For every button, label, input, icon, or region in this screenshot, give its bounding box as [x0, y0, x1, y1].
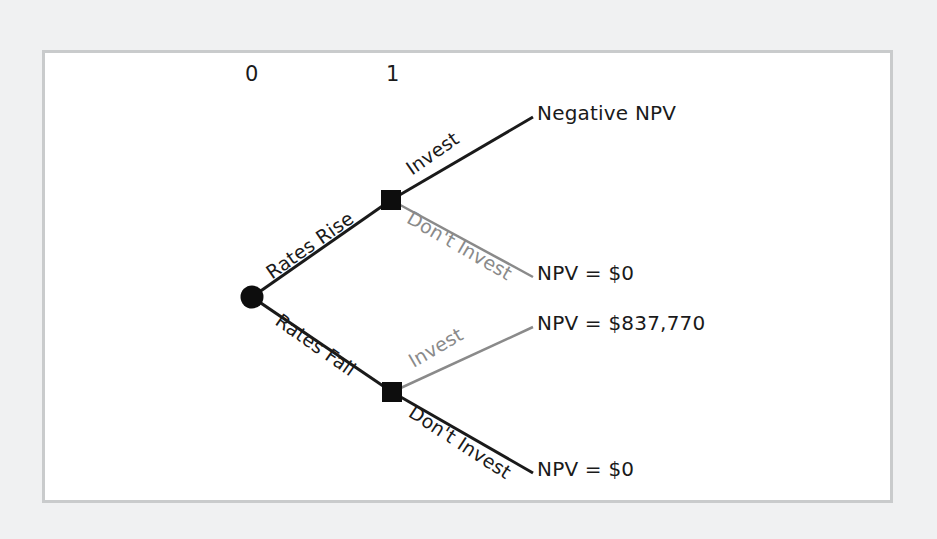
decision-tree-figure: 0 1 Rates Rise Rates Fall Invest Don't I… [0, 0, 937, 539]
chance-node-root [241, 286, 264, 309]
terminal-label-npv-837770: NPV = $837,770 [537, 311, 705, 335]
terminal-label-zero-bottom: NPV = $0 [537, 457, 634, 481]
period-label-0: 0 [222, 62, 282, 86]
decision-node-rates-fall [382, 382, 402, 402]
decision-node-rates-rise [381, 190, 401, 210]
period-label-1: 1 [363, 62, 423, 86]
terminal-label-negative-npv: Negative NPV [537, 101, 676, 125]
terminal-label-zero-top: NPV = $0 [537, 261, 634, 285]
